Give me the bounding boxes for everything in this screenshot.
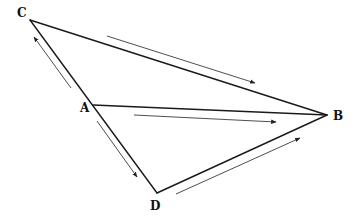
node-label-b: B (333, 109, 343, 123)
node-label-c: C (17, 6, 27, 20)
edges (30, 20, 327, 193)
arrow-a-to-c-icon (34, 37, 71, 88)
node-label-a: A (79, 101, 90, 115)
arrow-d-to-b-icon (176, 138, 300, 194)
arrow-a-to-d-icon (97, 121, 137, 177)
arrow-a-to-b-icon (134, 115, 276, 122)
edge-a-b (93, 105, 327, 115)
node-label-d: D (150, 199, 160, 213)
arrow-c-to-b-icon (107, 36, 255, 83)
edge-d-b (157, 115, 327, 193)
flow-arrows (34, 36, 300, 194)
edge-c-b (30, 20, 327, 115)
network-diagram: ABCD (0, 0, 356, 224)
